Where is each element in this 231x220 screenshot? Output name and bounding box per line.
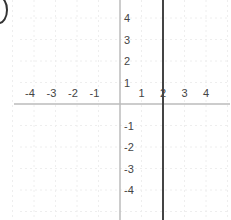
axes — [14, 0, 230, 220]
y-tick-label: 1 — [124, 77, 130, 89]
x-tick-label: 4 — [203, 87, 209, 99]
y-tick-label: -2 — [124, 141, 134, 153]
x-tick-label: -1 — [90, 87, 100, 99]
grid-lines — [13, 0, 231, 220]
y-tick-label: -3 — [124, 163, 134, 175]
y-tick-label: -4 — [124, 184, 134, 196]
y-tick-label: -1 — [124, 120, 134, 132]
x-tick-label: 3 — [181, 87, 187, 99]
x-tick-label: -2 — [68, 87, 78, 99]
x-tick-label: 1 — [138, 87, 144, 99]
y-tick-label: 3 — [124, 34, 130, 46]
x-tick-label: -3 — [47, 87, 57, 99]
x-tick-label: -4 — [25, 87, 35, 99]
y-tick-label: 2 — [124, 55, 130, 67]
y-tick-label: 4 — [124, 12, 130, 24]
coordinate-plane: -4-3-2-11234 4321-1-2-3-4 — [0, 0, 230, 220]
x-tick-labels: -4-3-2-11234 — [25, 87, 209, 99]
